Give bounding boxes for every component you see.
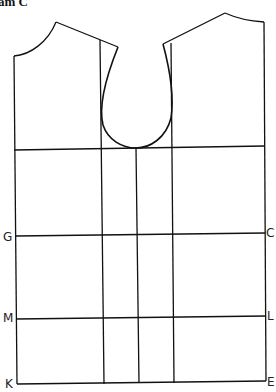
- label-e: E: [267, 375, 275, 389]
- line-m-l: [16, 316, 266, 319]
- left-armhole-curve: [14, 22, 56, 56]
- line-k-e: [17, 381, 266, 384]
- label-l: L: [267, 309, 274, 323]
- left-side-seam-line: [14, 56, 17, 384]
- label-c: C: [266, 226, 274, 240]
- label-k: K: [5, 377, 14, 391]
- right-side-seam-line: [264, 22, 266, 381]
- left-shoulder-line: [56, 22, 118, 47]
- center-front-line: [136, 148, 139, 383]
- neckline-curve: [102, 44, 172, 148]
- label-g: G: [3, 230, 12, 244]
- bodice-pattern-diagram: G C M L K E: [0, 0, 276, 392]
- line-g-c: [16, 233, 265, 236]
- right-shoulder-line: [163, 13, 225, 44]
- chest-line: [14, 146, 265, 150]
- right-armhole-curve: [225, 13, 264, 22]
- label-m: M: [3, 311, 13, 325]
